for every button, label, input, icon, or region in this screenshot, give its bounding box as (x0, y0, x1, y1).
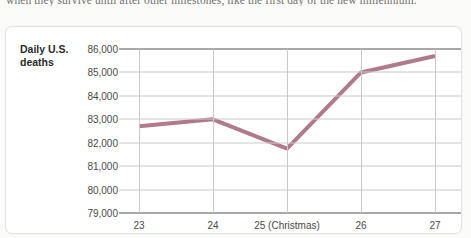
gridline-horizontal (119, 189, 461, 190)
gridline-vertical (435, 49, 436, 213)
gridline-horizontal (119, 72, 461, 73)
gridline-horizontal (119, 166, 461, 167)
gridline-horizontal (119, 95, 461, 96)
y-axis-tick-label: 83,000 (72, 114, 118, 125)
gridline-vertical (361, 49, 362, 213)
page-body-text: when they survive until after other mile… (6, 0, 471, 6)
gridline-vertical (213, 49, 214, 213)
x-axis-tick-label: 25 (Christmas) (254, 220, 320, 231)
gridline-horizontal (119, 119, 461, 120)
x-axis-tick-label: 26 (355, 220, 366, 231)
x-axis-tick-label: 27 (429, 220, 440, 231)
x-axis-tick-label: 24 (207, 220, 218, 231)
y-axis-tick-label: 85,000 (72, 67, 118, 78)
x-axis-tick-label: 23 (133, 220, 144, 231)
y-axis-tick-label: 80,000 (72, 184, 118, 195)
y-axis-tick-label: 82,000 (72, 137, 118, 148)
gridline-horizontal (119, 48, 461, 50)
y-axis-tick-label: 84,000 (72, 90, 118, 101)
gridline-horizontal (119, 142, 461, 143)
chart-card: Daily U.S. deaths 86,00085,00084,00083,0… (5, 26, 462, 234)
gridline-vertical (139, 49, 140, 213)
y-axis-tick-label: 81,000 (72, 161, 118, 172)
data-line-series (119, 27, 460, 233)
gridline-vertical (287, 49, 288, 213)
plot-area (119, 27, 461, 233)
y-axis-tick-label: 79,000 (72, 208, 118, 219)
gridline-horizontal (119, 212, 461, 214)
y-axis-tick-labels: 86,00085,00084,00083,00082,00081,00080,0… (64, 27, 118, 233)
y-axis-tick-label: 86,000 (72, 44, 118, 55)
